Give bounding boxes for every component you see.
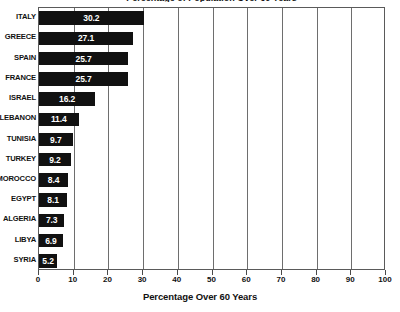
bar-row: 25.7 [39, 52, 384, 66]
x-tick-label: 50 [207, 276, 216, 284]
bar-value-label: 9.2 [49, 155, 61, 164]
bar-row: 8.1 [39, 193, 384, 207]
bar-row: 7.3 [39, 214, 384, 228]
bar-row: 9.2 [39, 153, 384, 167]
category-label: ALGERIA [3, 215, 36, 223]
bar-row: 9.7 [39, 133, 384, 147]
bar-value-label: 25.7 [76, 75, 92, 84]
category-axis-labels: ITALYGREECESPAINFRANCEISRAELLEBANONTUNIS… [0, 7, 36, 270]
category-label: SYRIA [14, 256, 36, 264]
category-label: TUNISIA [7, 135, 36, 143]
bar-value-label: 9.7 [50, 135, 62, 144]
bar-chart: Percentage of Population Over 60 Years I… [0, 0, 400, 312]
x-axis-title: Percentage Over 60 Years [0, 292, 400, 302]
category-label: LEBANON [0, 114, 36, 122]
x-tick-label: 90 [346, 276, 355, 284]
category-label: ISRAEL [9, 94, 36, 102]
category-label: MOROCCO [0, 175, 36, 183]
bar-value-label: 11.4 [51, 115, 67, 124]
bar-row: 25.7 [39, 72, 384, 86]
category-label: ITALY [16, 13, 36, 21]
bar-row: 30.2 [39, 11, 384, 25]
category-label: EGYPT [11, 195, 36, 203]
category-label: TURKEY [6, 155, 36, 163]
category-label: GREECE [5, 33, 36, 41]
bar-row: 6.9 [39, 234, 384, 248]
x-tick-label: 30 [138, 276, 147, 284]
bar-value-label: 27.1 [78, 34, 94, 43]
x-tick-label: 80 [311, 276, 320, 284]
category-label: FRANCE [5, 74, 36, 82]
bar-value-label: 25.7 [76, 54, 92, 63]
bar-value-label: 8.1 [47, 196, 59, 205]
x-tick-label: 20 [103, 276, 112, 284]
x-tick-label: 70 [276, 276, 285, 284]
bar-row: 27.1 [39, 32, 384, 46]
category-label: LIBYA [15, 236, 36, 244]
category-label: SPAIN [14, 54, 36, 62]
bar-value-label: 30.2 [83, 14, 99, 23]
bar-rows: 30.227.125.725.716.211.49.79.28.48.17.36… [39, 8, 384, 269]
bar-value-label: 16.2 [59, 95, 75, 104]
x-tick-label: 10 [68, 276, 77, 284]
bar-value-label: 8.4 [48, 176, 60, 185]
bar-row: 11.4 [39, 113, 384, 127]
x-tick-label: 0 [36, 276, 40, 284]
x-axis-tick-labels: 0102030405060708090100 [38, 276, 385, 288]
bar-value-label: 6.9 [45, 236, 57, 245]
plot-area: 30.227.125.725.716.211.49.79.28.48.17.36… [38, 7, 385, 270]
bar-row: 8.4 [39, 173, 384, 187]
x-tick-label: 100 [378, 276, 391, 284]
x-tick-label: 40 [172, 276, 181, 284]
bar-value-label: 5.2 [42, 257, 54, 266]
chart-title-cropped: Percentage of Population Over 60 Years [38, 0, 385, 2]
bar-value-label: 7.3 [46, 216, 58, 225]
bar-row: 16.2 [39, 92, 384, 106]
x-tick-label: 60 [242, 276, 251, 284]
bar-row: 5.2 [39, 254, 384, 268]
